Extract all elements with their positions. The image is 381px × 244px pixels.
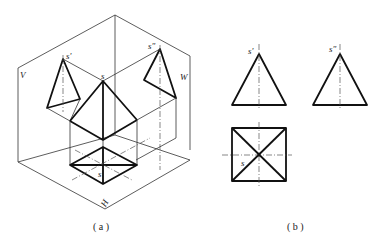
plane-label-v: V [20,70,27,80]
figure-a: V W H s' s" s s ( a ) [18,15,190,233]
projector [136,138,176,160]
projection-diagram: V W H s' s" s s ( a ) s' s" s ( b ) [0,0,381,244]
label-s-top-b: s [241,158,245,168]
apex-point [257,153,260,156]
plane-label-w: W [180,72,189,82]
label-s-front-b: s' [248,46,255,56]
projector [63,59,103,81]
axis-right [115,135,190,160]
projector [137,98,176,120]
projector [47,108,70,121]
caption-b: ( b ) [287,221,304,233]
label-s-apex: s [101,71,105,81]
label-s-front: s' [66,51,73,61]
plane-label-h: H [98,197,111,209]
front-projection-triangle [47,59,80,108]
label-s-side: s" [148,41,156,51]
figure-b: s' s" s ( b ) [222,44,367,233]
label-s-top: s [98,169,102,179]
caption-a: ( a ) [93,221,109,233]
label-s-side-b: s" [329,44,337,54]
